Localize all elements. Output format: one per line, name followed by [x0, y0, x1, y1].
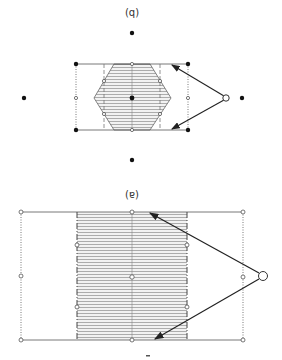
diagram-figure: (q) [0, 0, 282, 360]
source-circle [259, 272, 268, 281]
open-point [130, 275, 134, 279]
corner-dot [186, 62, 190, 66]
open-point [241, 210, 245, 214]
open-point [241, 275, 245, 279]
open-point [19, 210, 23, 214]
open-point [185, 243, 189, 247]
source-circle [223, 95, 229, 101]
open-point [185, 305, 189, 309]
arrow-down [172, 100, 224, 129]
open-point [130, 210, 134, 214]
open-point [130, 62, 133, 65]
open-point [130, 128, 133, 131]
lattice-dot [22, 96, 26, 100]
corner-dot [74, 62, 78, 66]
lattice-dot [130, 158, 134, 162]
open-point [158, 79, 161, 82]
open-point [186, 96, 189, 99]
open-point [130, 338, 134, 342]
lattice-dot [240, 96, 244, 100]
panel-b-label: (q) [125, 7, 139, 18]
arrow-up [172, 65, 224, 96]
lattice-dot [130, 31, 134, 35]
panel-a: (ɐ) [19, 189, 268, 357]
corner-dot [74, 128, 78, 132]
open-point [102, 112, 105, 115]
open-point [75, 243, 79, 247]
panel-a-label: (ɐ) [125, 189, 139, 200]
center-dot [130, 96, 135, 101]
open-point [102, 79, 105, 82]
open-point [74, 96, 77, 99]
open-point [19, 274, 23, 278]
corner-dot [186, 128, 190, 132]
panel-b: (q) [22, 7, 244, 162]
open-point [158, 112, 161, 115]
open-point [241, 338, 245, 342]
open-point [19, 338, 23, 342]
cutoff-mark [146, 355, 150, 357]
open-point [75, 305, 79, 309]
